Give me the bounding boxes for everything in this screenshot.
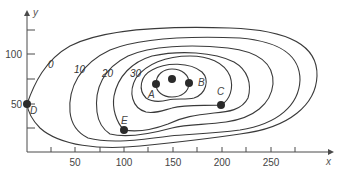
- y-axis-label: y: [32, 7, 39, 18]
- contours: [27, 27, 317, 147]
- contour-label-20: 20: [101, 68, 114, 79]
- point-label-b: B: [198, 77, 205, 88]
- point-a: [152, 80, 160, 88]
- contour-label-10: 10: [74, 64, 86, 75]
- point-c: [217, 101, 225, 109]
- contour-innermost: [156, 69, 189, 97]
- point-e: [120, 126, 128, 134]
- point-label-a: A: [147, 89, 155, 100]
- point-label-e: E: [121, 115, 128, 126]
- contour-label-0: 0: [48, 59, 54, 70]
- contour-diagram: 50 100 150 200 250 50 100 x y 0 10 20 30: [0, 0, 337, 169]
- point-label-d: D: [30, 105, 37, 116]
- x-tick-label: 150: [165, 157, 182, 168]
- x-axis-arrow-icon: [328, 149, 334, 155]
- point-label-c: C: [217, 86, 225, 97]
- x-tick-label: 200: [214, 157, 231, 168]
- y-tick-label: 50: [11, 99, 23, 110]
- x-tick-label: 50: [69, 157, 81, 168]
- x-axis-label: x: [325, 156, 332, 167]
- point-b: [185, 79, 193, 87]
- y-axis-arrow-icon: [24, 10, 30, 16]
- contour-label-30: 30: [130, 68, 142, 79]
- x-tick-label: 100: [116, 157, 133, 168]
- point-summit: [168, 75, 176, 83]
- y-tick-label: 100: [5, 49, 22, 60]
- axes: 50 100 150 200 250 50 100 x y: [5, 7, 334, 168]
- x-tick-label: 250: [263, 157, 280, 168]
